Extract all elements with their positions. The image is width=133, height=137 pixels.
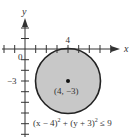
center-label: (4, −3) bbox=[54, 86, 79, 96]
center-point bbox=[66, 79, 70, 83]
disk-graph: y x 0 4 −3 (4, −3) (x − 4)2 + (y + 3)2 ≤… bbox=[0, 0, 133, 137]
y-axis-label: y bbox=[21, 6, 27, 17]
x-axis-arrow-icon bbox=[111, 46, 120, 52]
inequality-part2: + (y + 3) bbox=[61, 118, 95, 128]
y-axis-arrow-icon bbox=[22, 18, 28, 27]
x-axis-label: x bbox=[123, 43, 129, 54]
y-tick-label-neg3: −3 bbox=[7, 76, 17, 86]
origin-label: 0 bbox=[18, 52, 23, 62]
inequality-part1: (x − 4) bbox=[33, 118, 58, 128]
x-tick-label-4: 4 bbox=[66, 35, 71, 45]
y-axis bbox=[21, 18, 29, 137]
inequality-part3: ≤ 9 bbox=[98, 118, 112, 128]
inequality-label: (x − 4)2 + (y + 3)2 ≤ 9 bbox=[33, 117, 112, 128]
